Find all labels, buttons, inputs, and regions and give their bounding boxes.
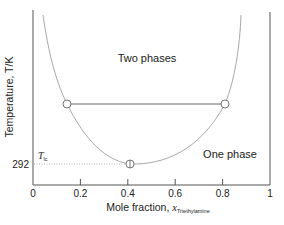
x-axis-label: Mole fraction, xTriethylamine [106, 201, 209, 214]
x-ticks [80, 179, 222, 185]
x-tick-0.2: 0.2 [73, 188, 87, 199]
phase-boundary-curve [43, 15, 241, 164]
x-tick-0.8: 0.8 [216, 188, 230, 199]
y-tick-292: 292 [12, 159, 29, 170]
tie-line-left-point [63, 100, 71, 108]
x-tick-labels: 0 0.2 0.4 0.6 0.8 1 [30, 188, 273, 199]
critical-point-marker [126, 160, 134, 168]
tie-line-right-point [221, 100, 229, 108]
one-phase-label: One phase [203, 148, 257, 160]
x-tick-1: 1 [267, 188, 273, 199]
x-tick-0.4: 0.4 [121, 188, 135, 199]
x-tick-0.6: 0.6 [168, 188, 182, 199]
y-axis-label: Temperature, T/K [3, 57, 15, 138]
two-phases-label: Two phases [118, 52, 177, 64]
tlc-label: Tlc [38, 150, 48, 162]
x-tick-0: 0 [30, 188, 36, 199]
phase-diagram: 0 0.2 0.4 0.6 0.8 1 292 Tlc Two phases O… [0, 0, 284, 225]
